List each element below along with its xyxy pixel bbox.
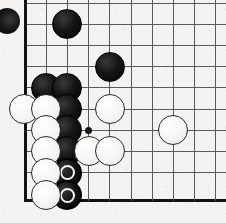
grid-line-horizontal-3: [24, 66, 226, 67]
hoshi-lower-left: [85, 127, 92, 134]
white-stone-center[interactable]: [95, 94, 125, 124]
white-stone-right[interactable]: [158, 115, 188, 145]
grid-line-vertical-8: [194, 0, 195, 201]
grid-line-vertical-3: [88, 0, 89, 201]
grid-line-vertical-9: [215, 0, 216, 201]
black-stone-center[interactable]: [95, 52, 125, 82]
black-stone-upper[interactable]: [52, 9, 82, 39]
grid-line-vertical-6: [152, 0, 153, 201]
black-stone-partial-offboard: [0, 8, 20, 34]
white-stone-lower-b[interactable]: [95, 136, 125, 166]
grid-line-vertical-7: [173, 0, 174, 201]
white-stone-left-e[interactable]: [31, 180, 61, 210]
grid-line-vertical-5: [131, 0, 132, 201]
grid-line-horizontal-2: [24, 45, 226, 46]
go-board[interactable]: [0, 0, 226, 223]
grid-line-horizontal-0: [24, 3, 226, 4]
